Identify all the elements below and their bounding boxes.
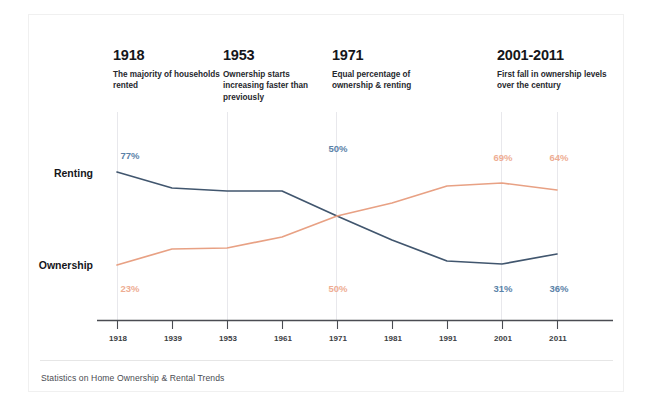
annotation-description: First fall in ownership levels over the …: [497, 69, 607, 92]
series-label-ownership: Ownership: [15, 259, 93, 271]
footer-caption: Statistics on Home Ownership & Rental Tr…: [41, 373, 225, 383]
x-tick-label-1953: 1953: [208, 334, 248, 343]
x-tick-label-1991: 1991: [428, 334, 468, 343]
footer-divider: [40, 360, 613, 361]
annotation-year: 1971: [332, 47, 442, 63]
data-label-renting-2001: 31%: [483, 283, 523, 294]
annotation-description: The majority of households rented: [113, 69, 223, 92]
data-label-ownership-1971: 50%: [318, 283, 358, 294]
annotation-1971: 1971 Equal percentage of ownership & ren…: [332, 47, 442, 92]
data-label-renting-1971: 50%: [318, 143, 358, 154]
annotation-year: 2001-2011: [497, 47, 607, 63]
annotation-description: Ownership starts increasing faster than …: [223, 69, 333, 103]
annotation-1953: 1953 Ownership starts increasing faster …: [223, 47, 333, 103]
x-tick-label-1918: 1918: [98, 334, 138, 343]
annotation-year: 1918: [113, 47, 223, 63]
annotation-year: 1953: [223, 47, 333, 63]
data-label-ownership-2011: 64%: [539, 152, 579, 163]
data-label-renting-1918: 77%: [110, 150, 150, 161]
x-tick-label-2001: 2001: [483, 334, 523, 343]
x-tick-label-1971: 1971: [318, 334, 358, 343]
x-tick-label-1981: 1981: [373, 334, 413, 343]
x-tick-label-1939: 1939: [153, 334, 193, 343]
annotation-2001-2011: 2001-2011 First fall in ownership levels…: [497, 47, 607, 92]
series-label-renting: Renting: [25, 167, 93, 179]
x-axis: [97, 320, 613, 329]
annotation-1918: 1918 The majority of households rented: [113, 47, 223, 92]
x-tick-label-2011: 2011: [538, 334, 578, 343]
data-label-renting-2011: 36%: [539, 283, 579, 294]
annotation-description: Equal percentage of ownership & renting: [332, 69, 442, 92]
data-label-ownership-2001: 69%: [483, 152, 523, 163]
data-label-ownership-1918: 23%: [110, 283, 150, 294]
x-tick-label-1961: 1961: [263, 334, 303, 343]
